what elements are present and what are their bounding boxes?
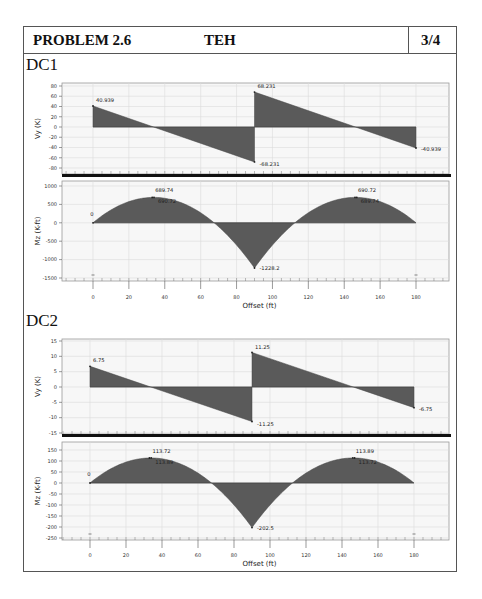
data-label: 113.72 — [359, 459, 377, 465]
y-tick-label: 1000 — [44, 183, 57, 189]
y-tick-label: 80 — [51, 83, 57, 89]
y-tick-label: -250 — [46, 535, 57, 541]
x-tick-label: 100 — [265, 552, 275, 558]
y-tick-label: 0 — [54, 480, 57, 486]
y-axis-label: Mz (K-ft) — [34, 476, 42, 505]
panel-separator-bar — [62, 434, 451, 437]
data-label: -6.75 — [419, 406, 432, 412]
y-tick-label: 60 — [51, 93, 57, 99]
data-label: -11.25 — [257, 421, 274, 427]
y-tick-label: -15 — [49, 430, 57, 436]
data-point-marker — [151, 197, 153, 199]
y-tick-label: 100 — [47, 458, 57, 464]
y-tick-label: 0 — [54, 384, 57, 390]
data-point-marker — [251, 527, 253, 529]
data-point-marker — [251, 421, 253, 423]
y-axis-label: Vy (K) — [34, 118, 42, 139]
data-point-marker — [356, 197, 358, 199]
y-tick-label: 500 — [47, 201, 57, 207]
data-label: 0 — [87, 471, 90, 477]
data-point-marker — [354, 196, 356, 198]
panel-separator-bar — [62, 174, 451, 177]
data-label: 689.74 — [155, 187, 174, 193]
charts-canvas: 806040200-20-40-60-80Vy (K)40.93968.231-… — [0, 0, 482, 599]
y-tick-label: -100 — [46, 502, 57, 508]
x-tick-label: 120 — [304, 294, 314, 300]
x-tick-label: 20 — [123, 552, 129, 558]
data-label: -202.5 — [257, 525, 274, 531]
data-label: 68.231 — [258, 83, 276, 89]
data-label: 11.25 — [255, 344, 270, 350]
y-tick-label: -20 — [49, 134, 57, 140]
y-tick-label: -500 — [46, 238, 57, 244]
x-tick-label: 60 — [195, 552, 201, 558]
x-tick-label: 60 — [197, 294, 203, 300]
x-tick-label: 100 — [268, 294, 278, 300]
x-tick-label: 80 — [233, 294, 239, 300]
x-tick-label: 0 — [88, 552, 91, 558]
data-label: 6.75 — [93, 357, 105, 363]
x-tick-label: 180 — [409, 552, 419, 558]
y-tick-label: -1500 — [42, 275, 57, 281]
data-label: -1228.2 — [260, 265, 280, 271]
y-tick-label: -80 — [49, 165, 57, 171]
y-axis-label: Vy (K) — [34, 376, 42, 397]
x-tick-label: 160 — [375, 294, 385, 300]
data-point-marker — [149, 457, 151, 459]
chart-panel-1: 806040200-20-40-60-80Vy (K)40.93968.231-… — [34, 83, 451, 177]
x-axis-label: Offset (ft) — [243, 560, 277, 568]
y-tick-label: -10 — [49, 414, 57, 420]
y-tick-label: -200 — [46, 524, 57, 530]
data-point-marker — [413, 407, 415, 409]
data-point-marker — [150, 457, 152, 459]
y-tick-label: -60 — [49, 155, 57, 161]
x-tick-label: 160 — [373, 552, 383, 558]
y-tick-label: -50 — [49, 491, 57, 497]
chart-panel-4: 150100500-50-100-150-200-250Mz (K-ft)011… — [34, 442, 449, 568]
x-tick-label: 80 — [231, 552, 237, 558]
y-tick-label: 10 — [51, 353, 57, 359]
data-point-marker — [92, 105, 94, 107]
x-tick-label: 120 — [301, 552, 311, 558]
y-tick-label: 15 — [51, 338, 57, 344]
y-tick-label: -150 — [46, 513, 57, 519]
data-point-marker — [354, 457, 356, 459]
y-tick-label: 0 — [54, 124, 57, 130]
x-tick-label: 140 — [337, 552, 347, 558]
data-label: 113.89 — [356, 448, 374, 454]
y-tick-label: 5 — [54, 368, 57, 374]
data-point-marker — [251, 352, 253, 354]
data-label: 689.74 — [361, 198, 380, 204]
x-tick-label: 40 — [162, 294, 168, 300]
data-point-marker — [254, 161, 256, 163]
x-tick-label: 0 — [91, 294, 94, 300]
data-point-marker — [254, 91, 256, 93]
data-point-marker — [153, 196, 155, 198]
data-point-marker — [415, 147, 417, 149]
x-tick-label: 140 — [339, 294, 349, 300]
data-label: 0 — [90, 211, 93, 217]
x-tick-label: 20 — [126, 294, 132, 300]
data-point-marker — [89, 365, 91, 367]
data-point-marker — [89, 482, 91, 484]
data-label: 690.72 — [358, 187, 376, 193]
data-label: -40.939 — [421, 146, 441, 152]
y-tick-label: -1000 — [42, 256, 57, 262]
data-label: 690.72 — [158, 198, 176, 204]
data-label: 40.939 — [96, 97, 114, 103]
y-tick-label: 150 — [47, 447, 57, 453]
data-label: 113.89 — [155, 459, 173, 465]
data-label: -68.231 — [260, 161, 280, 167]
y-axis-label: Mz (K-ft) — [34, 216, 42, 245]
chart-panel-2: 10005000-500-1000-1500Mz (K-ft)0689.7469… — [34, 181, 449, 310]
data-point-marker — [254, 267, 256, 269]
data-point-marker — [352, 457, 354, 459]
data-point-marker — [92, 222, 94, 224]
x-axis-label: Offset (ft) — [243, 302, 277, 310]
y-tick-label: -40 — [49, 144, 57, 150]
x-tick-label: 40 — [159, 552, 165, 558]
x-tick-label: 180 — [411, 294, 421, 300]
y-tick-label: -5 — [52, 399, 57, 405]
y-tick-label: 40 — [51, 103, 57, 109]
chart-panel-3: 151050-5-10-15Vy (K)6.7511.25-11.25-6.75 — [34, 338, 451, 437]
